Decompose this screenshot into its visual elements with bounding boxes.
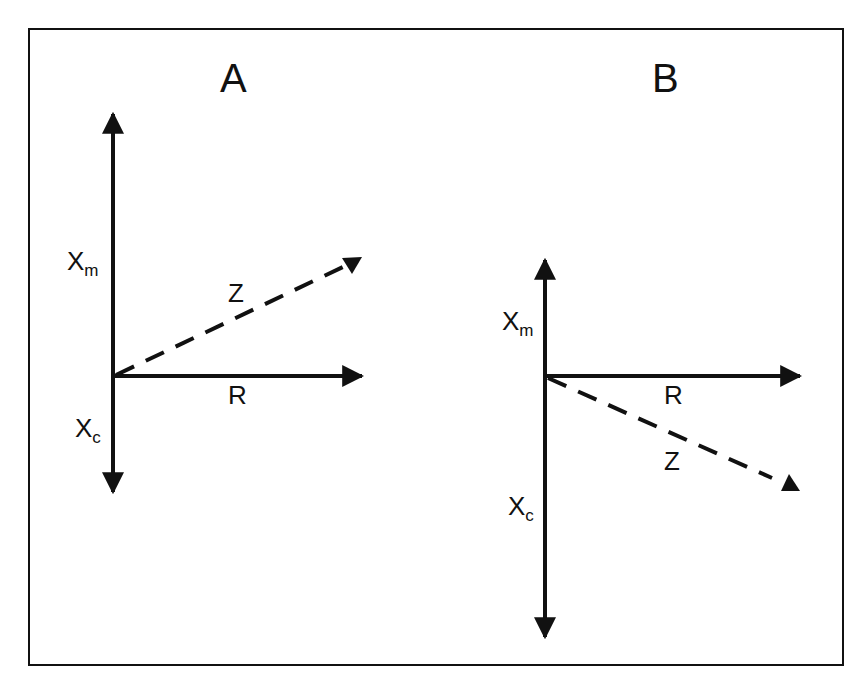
panel-a-title: A [220,56,247,100]
panel-b-title: B [652,56,679,100]
panel-b: B Xm Xc R Z [502,56,800,637]
panel-a-xm-label: Xm [67,246,99,280]
panel-b-xm-label: Xm [502,306,534,340]
panel-b-z-vector [548,378,772,478]
panel-a-z-arrowhead-icon [342,257,362,274]
panel-a-z-label: Z [228,278,244,308]
panel-b-z-arrowhead-icon [781,474,800,491]
panel-b-xc-label: Xc [508,491,534,525]
panel-b-z-label: Z [664,446,680,476]
panel-b-r-label: R [664,380,683,410]
panel-a: A Xm Xc R Z [67,56,362,492]
panel-a-xc-label: Xc [75,413,101,447]
diagram-canvas: A Xm Xc R Z B Xm Xc R Z [0,0,863,690]
panel-a-r-label: R [228,380,247,410]
impedance-diagram-figure: A Xm Xc R Z B Xm Xc R Z [0,0,863,690]
